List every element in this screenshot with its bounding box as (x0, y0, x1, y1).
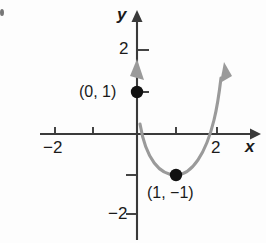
y-axis-label: y (117, 6, 126, 23)
y-tick-label-neg2: −2 (108, 205, 127, 222)
curve-left-arrowhead (130, 59, 144, 80)
curve-right-arrowhead (220, 62, 232, 83)
y-tick-label-2: 2 (119, 40, 128, 57)
parabola-curve (140, 78, 221, 175)
x-tick-label-neg2: −2 (43, 139, 62, 156)
point-marker-y-intercept (131, 86, 143, 98)
point-label-vertex: (1, −1) (147, 185, 194, 201)
graph-figure: y x 2 −2 −2 2 (0, 1) (1, −1) (0, 0, 266, 243)
y-axis-arrowhead (132, 10, 143, 22)
coordinate-plane (0, 0, 266, 243)
point-label-y-intercept: (0, 1) (79, 84, 116, 100)
x-tick-label-2: 2 (211, 139, 220, 156)
x-axis-label: x (245, 138, 254, 155)
point-marker-vertex (170, 169, 182, 181)
